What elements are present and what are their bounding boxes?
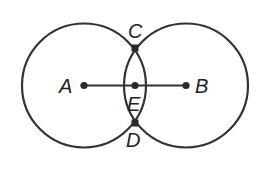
label-b: B — [195, 75, 208, 97]
label-e: E — [127, 93, 141, 115]
geometry-diagram: A B C E D — [0, 0, 266, 172]
point-c — [132, 45, 139, 52]
label-a: A — [58, 75, 72, 97]
label-d: D — [126, 129, 140, 151]
point-b — [182, 82, 189, 89]
point-d — [132, 120, 139, 127]
point-a — [80, 82, 87, 89]
label-c: C — [128, 20, 143, 42]
point-e — [131, 82, 138, 89]
